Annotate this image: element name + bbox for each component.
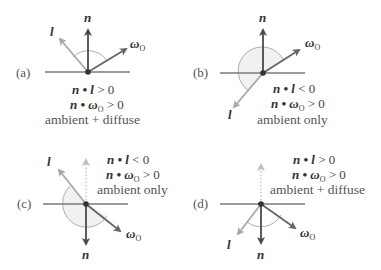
view-vector bbox=[261, 204, 295, 228]
condition-n-dot-w: n • ωO > 0 bbox=[271, 96, 325, 113]
lighting-result: ambient only bbox=[257, 112, 328, 127]
light-label: l bbox=[228, 107, 232, 122]
light-label: l bbox=[47, 154, 51, 169]
normal-label: n bbox=[257, 247, 264, 262]
surface-point bbox=[83, 201, 89, 207]
normal-label: n bbox=[84, 10, 91, 25]
panel-d: (d) n l ωO n • l > 0 n • ωO > 0 ambient … bbox=[193, 152, 365, 262]
normal-label: n bbox=[259, 10, 266, 25]
normal-label: n bbox=[82, 247, 89, 262]
surface-point bbox=[85, 69, 91, 75]
panel-label: (a) bbox=[16, 65, 30, 80]
lighting-result: ambient + diffuse bbox=[45, 112, 140, 127]
panel-a: (a) n l ωO n • l > 0 n • ωO > 0 ambient … bbox=[16, 10, 145, 127]
surface-point bbox=[260, 70, 266, 76]
view-label: ωO bbox=[126, 226, 141, 243]
panel-label: (b) bbox=[193, 65, 208, 80]
condition-n-dot-l: n • l < 0 bbox=[273, 81, 315, 96]
light-label: l bbox=[227, 237, 231, 252]
view-label: ωO bbox=[305, 35, 320, 52]
light-label: l bbox=[50, 24, 54, 39]
condition-n-dot-l: n • l < 0 bbox=[107, 152, 149, 167]
surface-point bbox=[258, 201, 264, 207]
condition-n-dot-l: n • l > 0 bbox=[293, 152, 335, 167]
panel-label: (c) bbox=[17, 196, 31, 211]
condition-n-dot-l: n • l > 0 bbox=[72, 82, 114, 97]
panel-b: (b) n l ωO n • l < 0 n • ωO > 0 ambient … bbox=[193, 10, 328, 127]
view-vector bbox=[88, 49, 126, 72]
panel-c: (c) n l ωO n • l < 0 n • ωO > 0 ambient … bbox=[17, 152, 168, 262]
lighting-result: ambient + diffuse bbox=[270, 182, 365, 197]
panel-label: (d) bbox=[193, 196, 208, 211]
view-label: ωO bbox=[300, 225, 315, 242]
lighting-cases-diagram: (a) n l ωO n • l > 0 n • ωO > 0 ambient … bbox=[0, 0, 381, 270]
lighting-result: ambient only bbox=[97, 182, 168, 197]
view-label: ωO bbox=[130, 36, 145, 53]
light-vector bbox=[238, 204, 261, 234]
light-vector bbox=[60, 39, 88, 72]
